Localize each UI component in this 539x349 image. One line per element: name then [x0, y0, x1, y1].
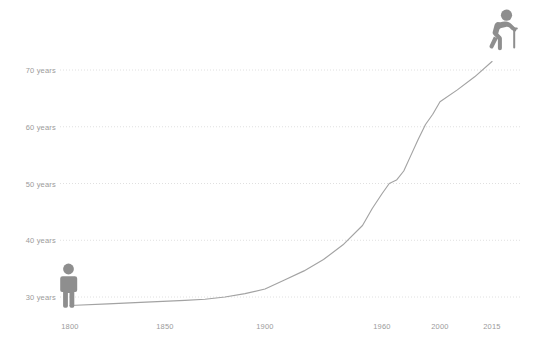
y-tick-label-60: 60 years — [0, 122, 56, 131]
elderly-person-with-cane-icon — [489, 10, 517, 51]
x-tick-label-1960: 1960 — [362, 322, 402, 331]
life-expectancy-line — [70, 61, 492, 305]
y-tick-label-40: 40 years — [0, 236, 56, 245]
life-expectancy-chart: 30 years40 years50 years60 years70 years… — [0, 0, 539, 349]
x-tick-label-1900: 1900 — [245, 322, 285, 331]
gridlines-group — [60, 70, 520, 297]
x-tick-label-2000: 2000 — [420, 322, 460, 331]
x-tick-label-1800: 1800 — [50, 322, 90, 331]
y-tick-label-70: 70 years — [0, 66, 56, 75]
x-tick-label-2015: 2015 — [472, 322, 512, 331]
chart-plot-area — [0, 0, 539, 349]
y-tick-label-30: 30 years — [0, 293, 56, 302]
y-tick-label-50: 50 years — [0, 179, 56, 188]
standing-person-icon — [60, 264, 77, 308]
x-tick-label-1850: 1850 — [145, 322, 185, 331]
